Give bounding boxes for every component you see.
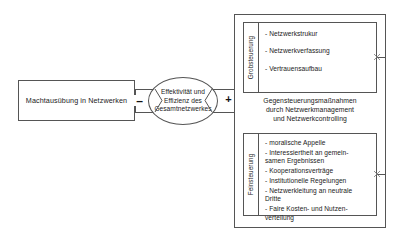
group-label-grobsteuerung: Grobsteuerung xyxy=(248,36,255,79)
group-label-feinsteuerung-wrap: Feinsteuerung xyxy=(244,134,259,215)
list-item: - Interessiertheit an gemein- samen Erge… xyxy=(265,149,372,166)
group-items-grobsteuerung: - Netzwerkstrukur - Netzwerkverfassung -… xyxy=(259,23,376,92)
list-item: - Netzwerkverfassung xyxy=(265,47,372,55)
group-box-grobsteuerung: Grobsteuerung - Netzwerkstrukur - Netzwe… xyxy=(243,22,377,93)
group-label-feinsteuerung: Feinsteuerung xyxy=(248,154,255,196)
negative-sign: – xyxy=(133,95,146,106)
list-item: - Institutionelle Regelungen xyxy=(265,177,372,185)
list-item: - Netzwerkstrukur xyxy=(265,30,372,38)
diagram-canvas: Machtausübung in Netzwerken – + Effektiv… xyxy=(0,0,396,245)
source-box-machtausuebung: Machtausübung in Netzwerken xyxy=(18,80,135,121)
center-node-label: Effektivität und Effizienz des Gesamtnet… xyxy=(149,88,217,114)
list-item: - moralische Appelle xyxy=(265,139,372,147)
list-item: - Netzwerkleitung an neutrale Dritte xyxy=(265,187,372,204)
list-item: - Vertrauensaufbau xyxy=(265,65,372,73)
center-node-effektivitaet: Effektivität und Effizienz des Gesamtnet… xyxy=(148,77,218,125)
group-label-grobsteuerung-wrap: Grobsteuerung xyxy=(244,23,259,92)
panel-caption: Gegensteuerungsmaßnahmen durch Netzwerkm… xyxy=(243,96,377,124)
group-box-feinsteuerung: Feinsteuerung - moralische Appelle - Int… xyxy=(243,133,377,216)
group-link-vertical xyxy=(385,57,386,175)
list-item: - Kooperationsverträge xyxy=(265,167,372,175)
source-box-label: Machtausübung in Netzwerken xyxy=(26,96,127,106)
list-item: - Faire Kosten- und Nutzen- verteilung xyxy=(265,205,372,222)
group-items-feinsteuerung: - moralische Appelle - Interessiertheit … xyxy=(259,134,376,215)
